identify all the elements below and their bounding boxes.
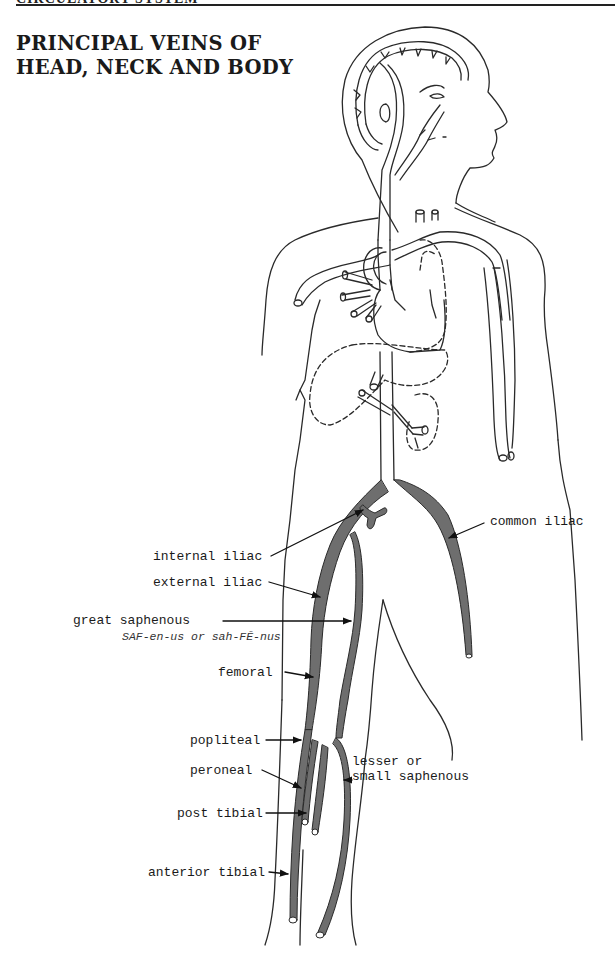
label-femoral: femoral — [218, 665, 273, 680]
label-lesser-saphenous-line1: lesser or — [352, 754, 422, 769]
label-internal-iliac: internal iliac — [153, 549, 262, 564]
label-post-tibial: post tibial — [177, 806, 263, 821]
label-common-iliac: common iliac — [490, 514, 584, 529]
vena-cava — [358, 352, 428, 480]
vein-diagram — [0, 0, 615, 955]
dural-sinuses — [354, 42, 468, 240]
label-popliteal: popliteal — [190, 733, 260, 748]
label-peroneal: peroneal — [190, 763, 252, 778]
heart — [341, 248, 445, 352]
leg-veins — [289, 480, 472, 938]
torso-outline — [262, 208, 582, 945]
facial-vein — [395, 105, 444, 180]
label-anterior-tibial: anterior tibial — [148, 865, 265, 880]
pronunciation-great-saphenous: SAF-en-us or sah-FĒ-nus — [122, 630, 281, 643]
label-external-iliac: external iliac — [153, 575, 262, 590]
label-great-saphenous: great saphenous — [73, 613, 190, 628]
label-lesser-saphenous-line2: small saphenous — [352, 769, 469, 784]
